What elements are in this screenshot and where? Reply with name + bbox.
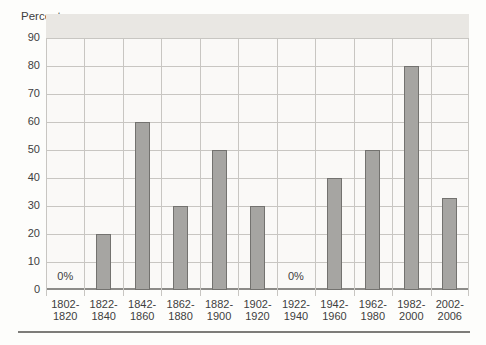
- x-tick-label: 2002-2006: [431, 298, 469, 322]
- x-tick-label: 1942-1960: [315, 298, 353, 322]
- x-tick-label: 1902-1920: [238, 298, 276, 322]
- y-tick-label: 50: [0, 143, 40, 155]
- x-tick-line: 2006: [431, 310, 469, 322]
- x-tick-line: 1960: [315, 310, 353, 322]
- gridline-v: [123, 38, 124, 296]
- y-tick-label: 0: [0, 283, 40, 295]
- y-tick-label: 60: [0, 115, 40, 127]
- x-tick-label: 1862-1880: [161, 298, 199, 322]
- x-tick-label: 1822-1840: [84, 298, 122, 322]
- bar: [442, 198, 457, 290]
- x-tick-line: 1862-: [161, 298, 199, 310]
- x-tick-label: 1882-1900: [200, 298, 238, 322]
- x-tick-line: 1842-: [123, 298, 161, 310]
- x-tick-line: 1982-: [392, 298, 430, 310]
- x-tick-line: 1902-: [238, 298, 276, 310]
- x-tick-line: 1822-: [84, 298, 122, 310]
- y-tick-label: 30: [0, 199, 40, 211]
- gridline-v: [468, 38, 469, 296]
- gridline-v: [315, 38, 316, 296]
- zero-value-label: 0%: [277, 270, 315, 282]
- x-tick-label: 1802-1820: [46, 298, 84, 322]
- x-tick-line: 1860: [123, 310, 161, 322]
- gridline-h: [46, 38, 469, 39]
- x-tick-line: 1980: [354, 310, 392, 322]
- x-tick-line: 1940: [277, 310, 315, 322]
- x-tick-line: 1802-: [46, 298, 84, 310]
- bottom-rule: [18, 331, 470, 333]
- plot-area: 0%0%: [46, 14, 469, 290]
- y-tick-label: 40: [0, 171, 40, 183]
- gridline-v: [238, 38, 239, 296]
- bar: [96, 234, 111, 290]
- bar-chart-figure: Percent 0%0% 90807060504030201001802-182…: [0, 0, 486, 345]
- gridline-v: [431, 38, 432, 296]
- bar: [173, 206, 188, 290]
- gridline-v: [46, 38, 47, 296]
- gridline-v: [84, 38, 85, 296]
- y-tick-label: 70: [0, 87, 40, 99]
- x-tick-line: 1882-: [200, 298, 238, 310]
- y-tick-label: 20: [0, 227, 40, 239]
- bar: [327, 178, 342, 290]
- y-tick-label: 10: [0, 255, 40, 267]
- x-tick-label: 1982-2000: [392, 298, 430, 322]
- y-tick-label: 90: [0, 31, 40, 43]
- y-tick-label: 80: [0, 59, 40, 71]
- x-tick-line: 2002-: [431, 298, 469, 310]
- x-tick-line: 2000: [392, 310, 430, 322]
- gridline-v: [277, 38, 278, 296]
- zero-value-label: 0%: [46, 270, 84, 282]
- x-tick-label: 1962-1980: [354, 298, 392, 322]
- x-tick-line: 1962-: [354, 298, 392, 310]
- x-tick-label: 1842-1860: [123, 298, 161, 322]
- bar: [365, 150, 380, 290]
- x-tick-line: 1920: [238, 310, 276, 322]
- gridline-v: [354, 38, 355, 296]
- bar: [250, 206, 265, 290]
- x-tick-line: 1942-: [315, 298, 353, 310]
- x-tick-line: 1840: [84, 310, 122, 322]
- x-tick-line: 1922-: [277, 298, 315, 310]
- x-tick-line: 1900: [200, 310, 238, 322]
- x-tick-label: 1922-1940: [277, 298, 315, 322]
- bar: [212, 150, 227, 290]
- bar: [135, 122, 150, 290]
- x-tick-line: 1880: [161, 310, 199, 322]
- bar: [404, 66, 419, 290]
- x-tick-line: 1820: [46, 310, 84, 322]
- plot-top-band: [46, 14, 469, 38]
- gridline-v: [392, 38, 393, 296]
- gridline-v: [161, 38, 162, 296]
- gridline-v: [200, 38, 201, 296]
